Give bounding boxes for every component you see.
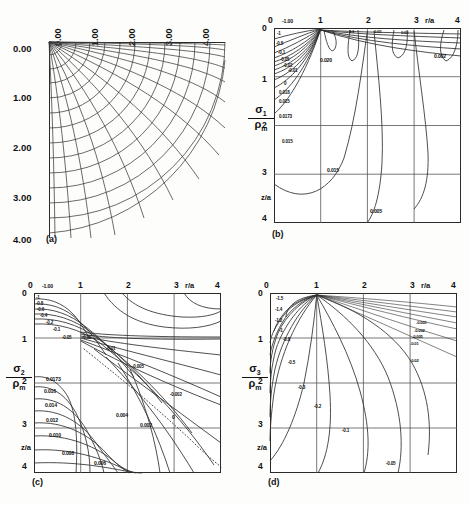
panel-b-label-t3: 0.02 — [401, 31, 408, 35]
panel-b-ytick-0: 0 — [262, 24, 267, 33]
panel-c-label-p4: 0.012 — [46, 418, 58, 423]
panel-a-plot — [49, 42, 225, 238]
panel-c-label-p6: 0.008 — [62, 451, 74, 456]
panel-d-label-6: -0.5 — [288, 361, 295, 366]
panel-b-sigma-num: σ — [255, 103, 263, 115]
panel-b-y-axis-label: z/a — [261, 194, 271, 202]
panel-a-ytick-3: 3.00 — [13, 193, 32, 203]
panel-b-label-9: 0.015 — [279, 100, 290, 105]
panel-a-stress-trajectories: 0.00 1.00 2.00 3.00 4.00 0.00 1.00 2.00 … — [8, 6, 228, 256]
panel-c-ytick-3: 3 — [22, 420, 27, 429]
panel-d-ytick-4: 4 — [258, 462, 263, 471]
panel-d-xtick-0: 0 — [264, 281, 269, 290]
panel-b-label-c2: 0.015 — [327, 168, 339, 173]
panel-b-ytick-4: 4 — [262, 214, 267, 223]
panel-a-ytick-4: 4.00 — [13, 235, 32, 245]
panel-d-tag: (d) — [268, 477, 280, 487]
panel-c-xtick-3: 3 — [174, 281, 179, 290]
panel-d-label-r4: -0.01 — [410, 342, 419, 346]
panel-c-sigma-num: σ — [13, 362, 21, 374]
panel-b-tag: (b) — [272, 229, 284, 239]
panel-b-xtick-2: 2 — [366, 16, 371, 25]
panel-d-label-3: -1.2 — [275, 319, 282, 324]
panel-c-label-5: -0.2 — [46, 321, 53, 326]
panel-b-sigma-den-sub: m — [261, 125, 267, 132]
panel-c-label-p5: 0.010 — [49, 433, 61, 438]
panel-c-xtick-0: 0 — [28, 281, 33, 290]
panel-d-x-axis-label: r/a — [421, 282, 430, 290]
panel-d-xtick-3: 3 — [410, 281, 415, 290]
panel-c-label-p2: 0.016 — [44, 389, 56, 394]
panel-d-label-5: -0.8 — [283, 338, 290, 343]
panel-b-sigma1: 0 1 2 3 4 r/a 0 1 2 3 4 z/a σ1 ρm (b) — [262, 16, 467, 251]
panel-a-ytick-2: 2.00 — [13, 143, 32, 153]
panel-d-label-7: -0.3 — [298, 386, 305, 391]
panel-d-ytick-1: 1 — [258, 335, 263, 344]
panel-d-label-r1: -0.001 — [416, 321, 427, 325]
panel-b-label-top-left: -1.00 — [282, 19, 293, 24]
panel-b-label-3: -0.1 — [278, 51, 285, 56]
panel-c-label-3: -0.6 — [37, 308, 44, 313]
panel-b-x-axis-label: r/a — [425, 17, 434, 25]
panel-d-label-8: -0.2 — [314, 405, 321, 410]
panel-d-xtick-2: 2 — [362, 281, 367, 290]
stress-contour-figure: 0.00 1.00 2.00 3.00 4.00 0.00 1.00 2.00 … — [0, 0, 469, 505]
panel-d-xtick-1: 1 — [314, 281, 319, 290]
panel-b-xtick-3: 3 — [414, 16, 419, 25]
panel-d-plot — [270, 293, 457, 473]
panel-d-label-10: -0.05 — [386, 462, 395, 467]
panel-c-label-p9: 0.002 — [140, 423, 152, 428]
panel-b-xtick-4: 4 — [455, 16, 460, 25]
panel-c-label-7: -0.05 — [62, 336, 71, 341]
panel-d-label-9: -0.1 — [342, 429, 349, 434]
panel-d-y-axis-label: z/a — [257, 444, 267, 452]
panel-c-label-p7: 0.006 — [94, 461, 106, 466]
panel-d-sigma-num: σ — [249, 362, 257, 374]
panel-c-sigma-ratio: σ2 ρm — [6, 363, 32, 391]
panel-d-sigma-den-sub: m — [255, 384, 261, 391]
panel-c-plot — [34, 293, 221, 473]
panel-c-y-axis-label: z/a — [21, 444, 31, 452]
panel-c-xtick-4: 4 — [215, 281, 220, 290]
panel-b-label-2: -0.5 — [276, 42, 283, 47]
panel-d-ytick-0: 0 — [258, 289, 263, 298]
panel-b-label-t1: 0.1 — [349, 30, 354, 34]
panel-b-label-7: 0 — [284, 82, 286, 87]
panel-b-label-10: 0.0173 — [279, 115, 292, 120]
panel-b-ytick-1: 1 — [262, 75, 267, 84]
panel-c-label-1: -1 — [36, 296, 40, 301]
panel-d-label-r5: -0.02 — [410, 359, 419, 363]
panel-b-label-t2: 0.05 — [374, 30, 381, 34]
panel-b-label-4: -0.05 — [280, 58, 289, 63]
panel-d-label-2: -1.4 — [275, 308, 282, 313]
panel-d-label-r2: -0.002 — [414, 329, 425, 333]
panel-c-xtick-1: 1 — [78, 281, 83, 290]
panel-b-label-6: -0.01 — [288, 69, 297, 74]
panel-c-label-6: -0.1 — [53, 328, 60, 333]
panel-c-label-11: -0.002 — [170, 393, 182, 398]
panel-c-label-4: -0.4 — [40, 314, 47, 319]
panel-d-label-1: -1.5 — [276, 297, 283, 302]
panel-d-sigma-num-sub: 3 — [257, 369, 261, 376]
panel-c-sigma2: 0 1 2 3 4 r/a 0 1 2 3 4 z/a σ2 ρm (c) — [22, 281, 227, 501]
panel-c-label-p3: 0.014 — [45, 403, 57, 408]
panel-c-ytick-1: 1 — [22, 335, 27, 344]
panel-b-label-8: 0.018 — [279, 91, 290, 96]
panel-c-label-8: -0.02 — [82, 336, 91, 341]
panel-c-label-zero: 0 — [172, 415, 175, 420]
panel-b-label-c4: 0.002 — [434, 54, 446, 59]
panel-a-ytick-0: 0.00 — [13, 44, 32, 54]
panel-c-label-10: -0.005 — [132, 365, 144, 370]
panel-c-label-top-left: -1.00 — [42, 284, 53, 289]
panel-b-label-c3: 0.005 — [370, 209, 382, 214]
panel-b-label-c1: 0.020 — [320, 58, 332, 63]
panel-b-ytick-3: 3 — [262, 168, 267, 177]
panel-c-sigma-num-sub: 2 — [21, 369, 25, 376]
panel-c-label-9: -0.01 — [106, 347, 115, 352]
panel-b-label-11: 0.015 — [282, 140, 293, 145]
panel-c-label-p8: 0.004 — [116, 413, 128, 418]
panel-c-sigma-den-sub: m — [19, 384, 25, 391]
panel-d-ytick-3: 3 — [258, 420, 263, 429]
panel-d-sigma-ratio: σ3 ρm — [242, 363, 268, 391]
panel-d-sigma3: 0 1 2 3 4 r/a 0 1 2 3 4 z/a σ3 ρm (d) — [258, 281, 463, 501]
